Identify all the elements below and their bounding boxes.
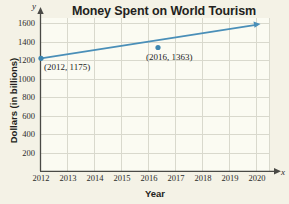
x-tick-label-2020: 2020 [242, 174, 272, 183]
data-point-2012 [38, 56, 43, 61]
x-axis-letter: x [281, 167, 285, 177]
annotation-2016: (2016, 1363) [146, 52, 193, 62]
x-tick-label-2019: 2019 [215, 174, 245, 183]
y-tick-label-200: 200 [5, 149, 35, 158]
y-tick-label-600: 600 [5, 112, 35, 121]
x-tick-label-2017: 2017 [161, 174, 191, 183]
y-tick-label-400: 400 [5, 130, 35, 139]
y-tick-label-1000: 1000 [5, 75, 35, 84]
chart-container: Money Spent on World Tourism Dollars (in… [0, 0, 289, 204]
x-tick-label-2014: 2014 [80, 174, 110, 183]
x-tick-label-2018: 2018 [188, 174, 218, 183]
y-axis-letter: y [32, 1, 36, 11]
annotation-2012: (2012, 1175) [44, 62, 90, 72]
y-tick-label-1600: 1600 [5, 19, 35, 28]
y-tick-label-1400: 1400 [5, 38, 35, 47]
x-tick-label-2015: 2015 [107, 174, 137, 183]
x-tick-label-2016: 2016 [134, 174, 164, 183]
x-tick-label-2013: 2013 [53, 174, 83, 183]
x-tick-label-2012: 2012 [26, 174, 56, 183]
y-tick-label-800: 800 [5, 93, 35, 102]
y-tick-label-1200: 1200 [5, 56, 35, 65]
data-point-2016 [155, 45, 160, 50]
